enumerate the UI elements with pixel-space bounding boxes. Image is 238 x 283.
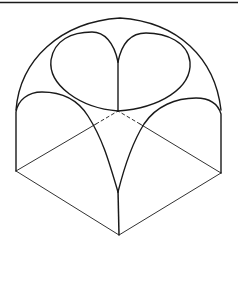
hidden-edge-right bbox=[118, 111, 140, 124]
back-right-edge bbox=[140, 124, 221, 173]
left-lobe bbox=[51, 32, 118, 111]
back-left-edge bbox=[16, 124, 96, 171]
front-edge bbox=[118, 190, 119, 235]
right-arch bbox=[118, 98, 221, 192]
left-arch bbox=[16, 92, 118, 192]
vault-diagram bbox=[0, 0, 238, 283]
hidden-edge-left bbox=[96, 111, 118, 124]
